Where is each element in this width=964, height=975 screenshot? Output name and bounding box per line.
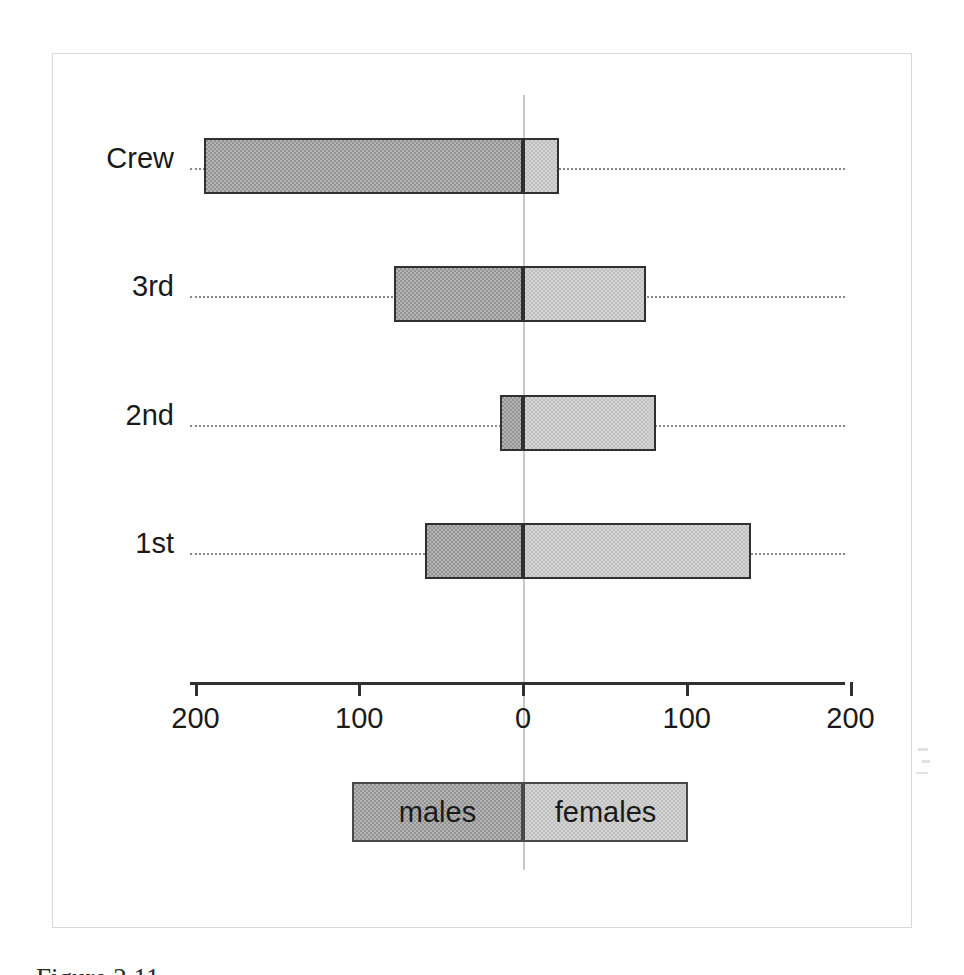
scan-artifact [922,760,930,763]
figure-caption: Figure 2.11 [36,963,160,975]
plot-frame [52,53,912,928]
scan-artifact [918,748,928,751]
figure-root: Crew3rd2nd1st 2001000100200 males female… [0,0,964,975]
scan-artifact [916,772,928,774]
